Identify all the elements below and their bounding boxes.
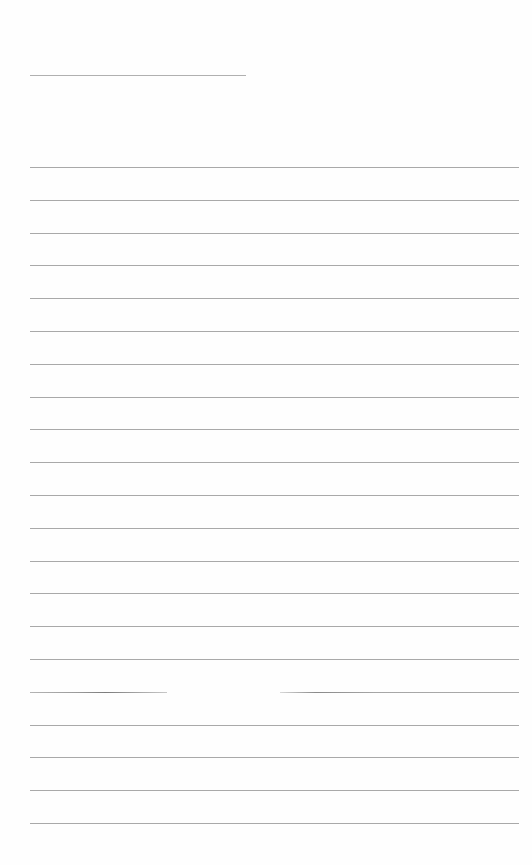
ruled-line [30,265,519,266]
ruled-line [30,429,519,430]
ruled-line [30,233,519,234]
ruled-line [30,593,519,594]
ruled-line [30,331,519,332]
ruled-line [30,626,519,627]
ruled-line [30,167,519,168]
ruled-line [30,462,519,463]
ruled-line [30,561,519,562]
lined-paper-page [0,0,532,865]
ruled-line-segment [280,692,519,693]
ruled-line [30,528,519,529]
ruled-line [30,823,519,824]
ruled-line [30,298,519,299]
ruled-line [30,364,519,365]
ruled-line [30,790,519,791]
ruled-line [30,757,519,758]
ruled-line [30,659,519,660]
ruled-line-segment [30,692,167,693]
ruled-line [30,725,519,726]
ruled-line [30,397,519,398]
ruled-line [30,200,519,201]
header-name-line [30,75,246,76]
ruled-line [30,495,519,496]
